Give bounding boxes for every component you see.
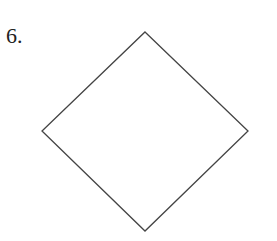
diamond-figure [0, 0, 277, 241]
diamond-shape [42, 32, 248, 231]
